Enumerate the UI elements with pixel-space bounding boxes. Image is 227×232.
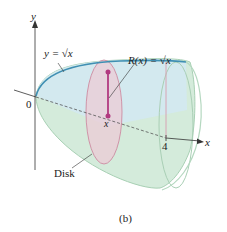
x-axis-label: x bbox=[204, 136, 210, 148]
radius-label: R(x) = √x bbox=[127, 54, 171, 67]
disk-label: Disk bbox=[54, 167, 75, 179]
y-axis-label: y bbox=[30, 10, 36, 22]
solid-of-revolution-diagram: y y = √x R(x) = √x 0 x 4 x Disk (b) bbox=[0, 0, 227, 232]
origin-label: 0 bbox=[26, 98, 32, 110]
radius-top-dot bbox=[106, 70, 111, 75]
disk bbox=[86, 60, 122, 164]
x-axis-arrow-icon bbox=[197, 139, 204, 145]
x-axis-back bbox=[14, 90, 36, 97]
curve-label: y = √x bbox=[43, 47, 73, 59]
x-point-label: x bbox=[103, 118, 109, 129]
figure-caption: (b) bbox=[119, 212, 132, 225]
x-tick-4-label: 4 bbox=[162, 140, 168, 152]
